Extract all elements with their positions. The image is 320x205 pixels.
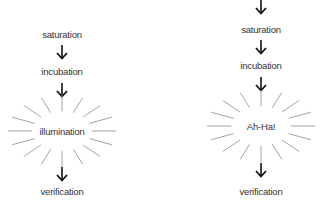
down-arrow-icon — [256, 77, 266, 91]
step-incubation: incubation — [240, 60, 281, 71]
step-illumination: illumination — [39, 126, 84, 137]
step-saturation: saturation — [42, 29, 82, 40]
down-arrow-icon — [256, 163, 266, 177]
step-incubation: incubation — [41, 66, 82, 77]
step-verification: verification — [40, 186, 83, 197]
step-saturation: saturation — [241, 24, 281, 35]
down-arrow-icon — [57, 45, 67, 59]
down-arrow-icon — [57, 83, 67, 97]
down-arrow-icon — [57, 167, 67, 181]
step-verification: verification — [239, 186, 282, 197]
step-ah-ha: Ah-Ha! — [247, 121, 275, 132]
down-arrow-icon — [256, 0, 266, 14]
down-arrow-icon — [256, 40, 266, 54]
